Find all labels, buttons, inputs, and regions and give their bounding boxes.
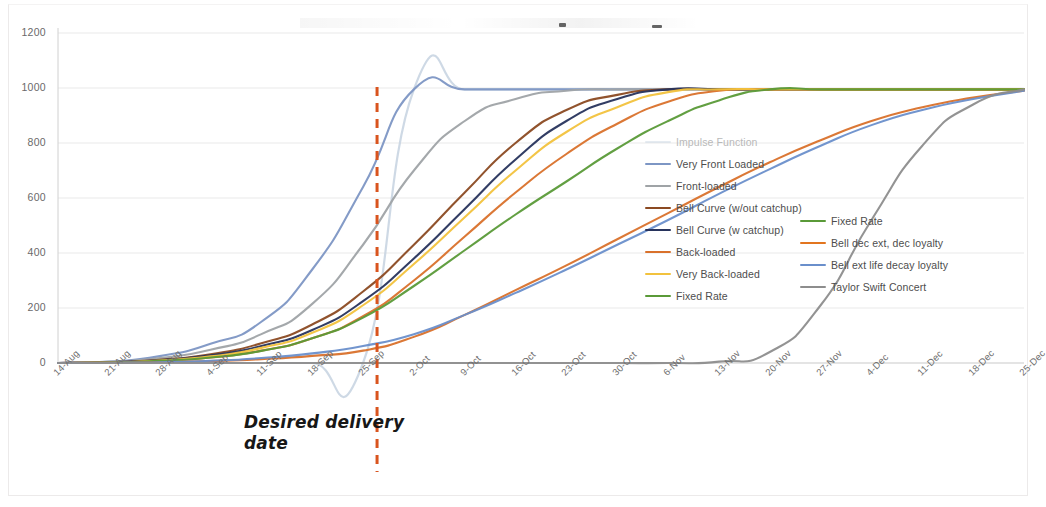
annotation-line-2: date — [244, 433, 454, 454]
y-axis-tick-label: 600 — [6, 191, 46, 203]
legend-color-swatch — [645, 229, 671, 232]
legend-item-label: Bell dec ext, dec loyalty — [831, 237, 943, 249]
legend-item[interactable]: Bell Curve (w catchup) — [645, 219, 825, 241]
chart-legend: Impulse FunctionVery Front LoadedFront-l… — [645, 131, 1035, 321]
legend-item[interactable]: Taylor Swift Concert — [800, 276, 1035, 298]
legend-item-label: Very Back-loaded — [676, 268, 760, 280]
legend-item-label: Bell Curve (w catchup) — [676, 224, 784, 236]
legend-color-swatch — [645, 295, 671, 298]
legend-item-label: Back-loaded — [676, 246, 735, 258]
legend-color-swatch — [800, 286, 826, 289]
y-axis-tick-label: 200 — [6, 301, 46, 313]
legend-item[interactable]: Fixed Rate — [800, 210, 1035, 232]
legend-color-swatch — [645, 207, 671, 210]
legend-item-label: Fixed Rate — [676, 290, 728, 302]
screenshot-page: 020040060080010001200 14-Aug21-Aug28-Aug… — [0, 0, 1046, 507]
legend-item-label: Very Front Loaded — [676, 158, 764, 170]
legend-color-swatch — [645, 251, 671, 254]
y-axis-tick-label: 1000 — [6, 81, 46, 93]
legend-color-swatch — [800, 220, 826, 223]
legend-column-right: Fixed RateBell dec ext, dec loyaltyBell … — [800, 210, 1035, 298]
legend-color-swatch — [645, 185, 671, 188]
annotation-desired-delivery-date: Desired delivery date — [244, 412, 454, 453]
legend-color-swatch — [645, 141, 671, 144]
legend-item-label: Taylor Swift Concert — [831, 281, 926, 293]
y-axis-tick-label: 1200 — [6, 26, 46, 38]
legend-item[interactable]: Very Back-loaded — [645, 263, 825, 285]
y-axis-tick-label: 0 — [6, 356, 46, 368]
legend-item[interactable]: Bell Curve (w/out catchup) — [645, 197, 825, 219]
legend-item[interactable]: Bell dec ext, dec loyalty — [800, 232, 1035, 254]
y-axis-tick-label: 400 — [6, 246, 46, 258]
legend-item-label: Fixed Rate — [831, 215, 883, 227]
legend-item-label: Bell ext life decay loyalty — [831, 259, 948, 271]
legend-item-label: Impulse Function — [676, 136, 758, 148]
legend-color-swatch — [800, 242, 826, 245]
legend-item[interactable]: Front-loaded — [645, 175, 825, 197]
legend-column-left: Impulse FunctionVery Front LoadedFront-l… — [645, 131, 825, 307]
y-axis-tick-label: 800 — [6, 136, 46, 148]
legend-color-swatch — [645, 273, 671, 276]
legend-item[interactable]: Impulse Function — [645, 131, 825, 153]
legend-item[interactable]: Bell ext life decay loyalty — [800, 254, 1035, 276]
legend-color-swatch — [645, 163, 671, 166]
legend-color-swatch — [800, 264, 826, 267]
annotation-line-1: Desired delivery — [244, 412, 454, 433]
legend-item-label: Front-loaded — [676, 180, 737, 192]
legend-item[interactable]: Very Front Loaded — [645, 153, 825, 175]
legend-item[interactable]: Fixed Rate — [645, 285, 825, 307]
legend-item-label: Bell Curve (w/out catchup) — [676, 202, 802, 214]
legend-item[interactable]: Back-loaded — [645, 241, 825, 263]
